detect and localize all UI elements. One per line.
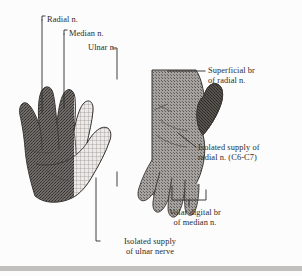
label-isolated-supply-ulnar: Isolated supply of ulnar nerve [98, 237, 202, 257]
label-isolated-radial-line2: radial n. (C6-C7) [198, 153, 260, 163]
label-isolated-radial-line1: Isolated supply of [198, 143, 260, 153]
label-radial-nerve: Radial n. [47, 15, 78, 25]
label-isolated-supply-radial: Isolated supply of radial n. (C6-C7) [198, 143, 260, 163]
label-median-nerve: Median n. [69, 29, 104, 39]
label-volar-digital-line1: Volar digital br [141, 208, 249, 218]
label-superficial-branch-radial: Superficial br of radial n. [208, 66, 255, 86]
label-superficial-branch-line2: of radial n. [208, 76, 255, 86]
hand-nerve-illustration [0, 0, 302, 276]
anatomical-figure: Radial n. Median n. Ulnar n. Superficial… [0, 0, 302, 276]
label-ulnar-nerve: Ulnar n. [88, 43, 116, 53]
label-volar-digital-line2: of median n. [141, 218, 249, 228]
label-superficial-branch-line1: Superficial br [208, 66, 255, 76]
label-isolated-ulnar-line1: Isolated supply [98, 237, 202, 247]
label-volar-digital-branch-median: Volar digital br of median n. [141, 208, 249, 228]
bottom-bar [0, 266, 302, 271]
label-isolated-ulnar-line2: of ulnar nerve [98, 247, 202, 257]
